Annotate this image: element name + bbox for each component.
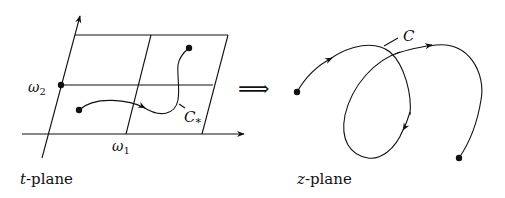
curve-c-star-cont (143, 48, 189, 114)
omega2-point (58, 82, 64, 88)
t-plane-panel (22, 16, 244, 158)
conformal-map-diagram: ω2 ω1 C* t-plane ⟹ C z-plane (0, 0, 505, 198)
curve-c-seg3 (403, 112, 410, 130)
c-star-label: C* (184, 108, 201, 129)
c-label: C (403, 27, 415, 45)
c-leader (384, 38, 398, 46)
c-star-start-point (76, 107, 82, 113)
implies-arrow: ⟹ (238, 76, 270, 101)
curve-c-star (79, 100, 145, 110)
curve-c-seg4 (344, 52, 403, 158)
omega1-label: ω1 (112, 138, 130, 156)
curve-c-seg1 (297, 58, 332, 92)
omega2-label: ω2 (28, 79, 46, 97)
c-end-point (456, 155, 462, 161)
t-plane-label: t-plane (20, 170, 73, 188)
curve-c-seg5 (395, 45, 432, 54)
c-star-end-point (186, 45, 192, 51)
z-plane-panel (297, 38, 482, 158)
c-start-point (294, 89, 300, 95)
curve-c-seg6 (430, 45, 482, 158)
curve-c-seg2 (330, 45, 410, 115)
z-plane-label: z-plane (296, 170, 352, 188)
